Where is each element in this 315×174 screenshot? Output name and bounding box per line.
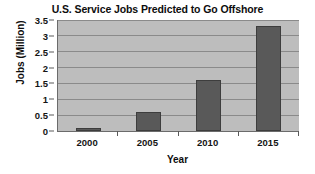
plot-area <box>57 20 299 132</box>
y-axis-tick-mark <box>49 51 54 52</box>
chart-title: U.S. Service Jobs Predicted to Go Offsho… <box>0 3 315 15</box>
bar <box>136 112 161 131</box>
x-axis-tick-label: 2015 <box>257 137 278 148</box>
x-axis-tick-mark <box>178 131 179 136</box>
y-axis-tick-mark <box>49 99 54 100</box>
y-axis-tick-label: 3 <box>43 30 48 41</box>
y-axis-tick-label: 1.5 <box>35 78 48 89</box>
y-axis-tick-label: 1 <box>43 94 48 105</box>
y-axis-tick-mark <box>49 35 54 36</box>
x-axis-tick-label: 2005 <box>137 137 158 148</box>
gridline <box>58 20 299 21</box>
y-axis-tick-label: 2 <box>43 62 48 73</box>
y-axis-tick-label: 0 <box>43 126 48 137</box>
x-axis-title: Year <box>57 154 298 165</box>
y-axis-tick-mark <box>49 131 54 132</box>
x-axis-tick-label: 2000 <box>77 137 98 148</box>
y-axis-tick-label: 3.5 <box>35 15 48 26</box>
bar-chart-figure: U.S. Service Jobs Predicted to Go Offsho… <box>0 0 315 174</box>
y-axis-tick-mark <box>49 115 54 116</box>
x-axis-tick-label: 2010 <box>197 137 218 148</box>
y-axis-tick-label: 2.5 <box>35 46 48 57</box>
y-axis-tick-label: 0.5 <box>35 110 48 121</box>
y-axis-tick-mark <box>49 83 54 84</box>
x-axis-tick-mark <box>298 131 299 136</box>
y-axis-tick-mark <box>49 67 54 68</box>
y-axis-tick-mark <box>49 20 54 21</box>
x-axis-tick-mark <box>117 131 118 136</box>
x-axis-tick-labels: 2000200520102015 <box>57 137 298 151</box>
y-axis-tick-labels: 00.511.522.533.5 <box>0 20 54 132</box>
x-axis-tick-mark <box>238 131 239 136</box>
bar <box>256 26 281 131</box>
bar <box>196 80 221 131</box>
